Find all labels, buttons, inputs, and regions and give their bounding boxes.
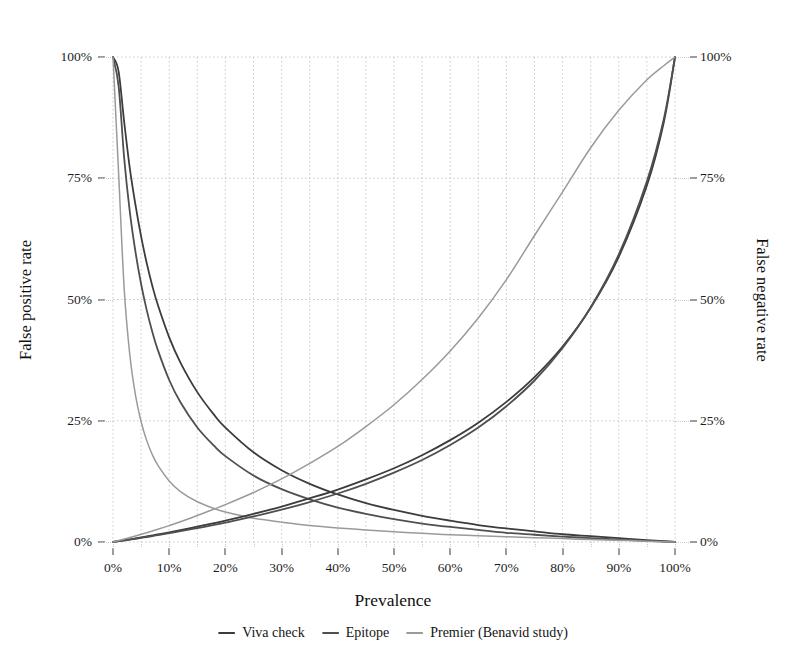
x-axis-tick-connector (338, 542, 340, 549)
x-axis-tick-mark (225, 548, 226, 555)
x-axis-tick-label: 20% (213, 561, 238, 575)
y-axis-left-title: False positive rate (18, 240, 35, 360)
x-axis-minor-tick (647, 542, 649, 547)
y-axis-right-tick-label: 50% (700, 293, 725, 307)
x-axis-tick-mark (169, 548, 170, 555)
x-axis-tick-mark (337, 548, 338, 555)
y-axis-left-tick-connector (100, 542, 113, 544)
x-axis-minor-tick (535, 542, 537, 547)
y-axis-right-tick-mark (690, 299, 697, 300)
chart-canvas (113, 57, 675, 542)
chart-legend: Viva checkEpitopePremier (Benavid study) (218, 626, 568, 640)
y-axis-right-tick-connector (675, 542, 689, 544)
legend-item[interactable]: Epitope (322, 626, 390, 640)
y-axis-left-tick-label: 100% (40, 50, 92, 64)
x-axis-minor-tick (197, 542, 199, 547)
y-axis-right-tick-mark (690, 178, 697, 179)
y-axis-left-tick-connector (100, 57, 113, 59)
x-axis-tick-connector (563, 542, 565, 549)
x-axis-tick-mark (450, 548, 451, 555)
y-axis-right-title: False negative rate (754, 238, 771, 362)
legend-swatch-line-icon (406, 632, 423, 635)
x-axis-tick-mark (618, 548, 619, 555)
y-axis-left-tick-label: 50% (40, 293, 92, 307)
x-axis-title: Prevalence (355, 592, 432, 610)
y-axis-right-tick-label: 75% (700, 172, 725, 186)
x-axis-minor-tick (254, 542, 256, 547)
legend-item[interactable]: Viva check (218, 626, 305, 640)
x-axis-minor-tick (591, 542, 593, 547)
y-axis-left-tick-label: 75% (40, 172, 92, 186)
x-axis-tick-label: 70% (494, 561, 519, 575)
x-axis-minor-tick (141, 542, 143, 547)
legend-swatch-line-icon (218, 632, 235, 635)
x-axis-tick-connector (506, 542, 508, 549)
y-axis-left-tick-label: 0% (40, 535, 92, 549)
x-axis-tick-mark (113, 548, 114, 555)
y-axis-right-tick-connector (675, 300, 689, 302)
x-axis-tick-connector (169, 542, 171, 549)
legend-swatch-line-icon (322, 632, 339, 635)
x-axis-minor-tick (366, 542, 368, 547)
x-axis-tick-label: 50% (382, 561, 407, 575)
x-axis-tick-connector (619, 542, 621, 549)
x-axis-tick-connector (394, 542, 396, 549)
legend-item[interactable]: Premier (Benavid study) (406, 626, 568, 640)
x-axis-tick-mark (562, 548, 563, 555)
y-axis-right-tick-connector (675, 421, 689, 423)
x-axis-tick-connector (113, 542, 115, 549)
x-axis-tick-label: 90% (606, 561, 631, 575)
x-axis-tick-mark (506, 548, 507, 555)
x-axis-minor-tick (422, 542, 424, 547)
x-axis-tick-label: 100% (659, 561, 691, 575)
y-axis-left-tick-label: 25% (40, 414, 92, 428)
x-axis-tick-label: 30% (269, 561, 294, 575)
y-axis-right-tick-label: 100% (700, 50, 732, 64)
x-axis-tick-label: 60% (438, 561, 463, 575)
x-axis-tick-label: 0% (104, 561, 122, 575)
x-axis-tick-mark (394, 548, 395, 555)
y-axis-right-tick-label: 25% (700, 414, 725, 428)
chart-figure: False positive rate False negative rate … (0, 0, 786, 655)
x-axis-minor-tick (310, 542, 312, 547)
x-axis-tick-connector (450, 542, 452, 549)
x-axis-tick-label: 40% (325, 561, 350, 575)
y-axis-right-tick-connector (675, 178, 689, 180)
plot-area (113, 57, 675, 542)
y-axis-right-tick-connector (675, 57, 689, 59)
x-axis-tick-mark (675, 548, 676, 555)
legend-label: Epitope (346, 626, 390, 640)
x-axis-minor-tick (478, 542, 480, 547)
x-axis-tick-connector (675, 542, 677, 549)
legend-label: Premier (Benavid study) (430, 626, 568, 640)
x-axis-tick-connector (282, 542, 284, 549)
y-axis-right-tick-label: 0% (700, 535, 718, 549)
x-axis-tick-label: 10% (157, 561, 182, 575)
y-axis-right-tick-mark (690, 420, 697, 421)
y-axis-left-tick-connector (100, 300, 113, 302)
x-axis-tick-label: 80% (550, 561, 575, 575)
legend-label: Viva check (242, 626, 305, 640)
y-axis-right-tick-mark (690, 542, 697, 543)
y-axis-left-tick-connector (100, 421, 113, 423)
x-axis-tick-connector (225, 542, 227, 549)
x-axis-tick-mark (281, 548, 282, 555)
y-axis-right-tick-mark (690, 57, 697, 58)
y-axis-left-tick-connector (100, 178, 113, 180)
